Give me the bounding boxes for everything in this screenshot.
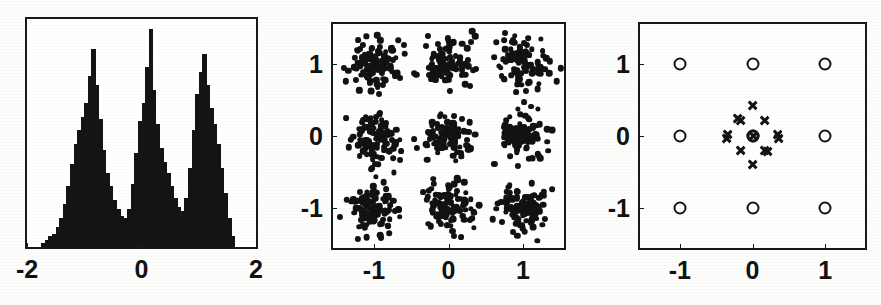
scatter-point <box>451 144 458 151</box>
scatter-point <box>355 37 361 43</box>
scatter-point <box>442 45 449 52</box>
scatter-point <box>346 144 352 150</box>
scatter-point <box>540 222 545 227</box>
centers-y-tick <box>640 136 644 137</box>
origin-cross <box>748 131 758 141</box>
scatter-point <box>490 216 497 223</box>
scatter-point <box>468 197 474 203</box>
scatter-point <box>521 99 527 105</box>
scatter-point <box>430 181 436 187</box>
scatter-point <box>530 224 537 231</box>
scatter-point <box>359 137 366 144</box>
scatter-point <box>471 225 476 230</box>
scatter-point <box>365 63 372 70</box>
scatter-point <box>396 38 402 44</box>
scatter-point <box>466 119 473 126</box>
scatter-point <box>507 153 513 159</box>
scatter-point <box>544 139 550 145</box>
centers-x-tick <box>680 244 681 248</box>
scatter-point <box>437 137 443 143</box>
scatter-point <box>423 43 429 49</box>
centers-markers <box>640 24 865 248</box>
scatter-point <box>401 50 408 57</box>
scatter-point <box>411 136 417 142</box>
scatter-point <box>502 77 507 82</box>
scatter-point <box>371 188 377 194</box>
scatter-point <box>472 131 479 138</box>
scatter-point <box>351 210 357 216</box>
scatter-point <box>534 136 541 143</box>
scatter-point <box>549 186 555 192</box>
scatter-point <box>401 42 407 48</box>
scatter-point <box>377 232 384 239</box>
scatter-point <box>499 219 505 225</box>
scatter-point <box>374 134 380 140</box>
centers-y-ticklabel: 0 <box>590 124 630 149</box>
scatter-point <box>491 161 497 167</box>
scatter-point <box>514 163 520 169</box>
scatter-point <box>493 40 498 45</box>
scatter-point <box>519 222 525 228</box>
scatter-point <box>368 166 374 172</box>
cross-marker <box>762 146 773 157</box>
cross-marker <box>721 133 732 144</box>
scatter-point <box>354 59 361 66</box>
scatter-point <box>459 67 465 73</box>
scatter-point <box>523 144 530 151</box>
scatter-point <box>459 40 466 47</box>
scatter-point <box>435 211 441 217</box>
histogram-axes-frame <box>25 17 258 249</box>
scatter-point <box>450 39 457 46</box>
cross-marker <box>773 133 784 144</box>
scatter-point <box>553 78 560 85</box>
centers-x-tick <box>825 244 826 248</box>
cross-marker <box>747 159 758 170</box>
cross-marker <box>759 115 770 126</box>
scatter-point <box>357 153 363 159</box>
scatter-point <box>468 39 474 45</box>
scatter-point <box>448 59 455 66</box>
scatter-point <box>468 145 474 151</box>
scatter-point <box>535 107 540 112</box>
scatter-point <box>426 187 432 193</box>
scatter-point <box>392 141 398 147</box>
scatter-point <box>493 206 499 212</box>
scatter-point <box>446 186 452 192</box>
scatter-point <box>541 193 547 199</box>
scatter-point <box>376 91 382 97</box>
scatter-point <box>451 113 457 119</box>
scatter-point <box>391 170 396 175</box>
scatter-point <box>539 37 544 42</box>
scatter-point <box>397 214 403 220</box>
scatter-point <box>504 189 511 196</box>
cluster-center-circle <box>746 202 759 215</box>
scatter-point <box>531 209 537 215</box>
scatter-point <box>447 88 453 94</box>
centers-y-tick <box>640 208 644 209</box>
scatter-point <box>445 67 451 73</box>
scatter-point <box>519 137 525 143</box>
scatter-point <box>363 234 370 241</box>
centers-x-tick <box>753 244 754 248</box>
scatter-point <box>501 130 508 137</box>
scatter-point <box>363 114 369 120</box>
scatter-x-ticklabel: -1 <box>363 258 385 283</box>
scatter-point <box>523 67 529 73</box>
scatter-point <box>469 28 476 35</box>
scatter-x-tick <box>523 244 524 248</box>
scatter-point <box>514 188 521 195</box>
scatter-point <box>527 201 534 208</box>
figure-canvas: -202 -10110-1 -10110-1 <box>0 0 881 305</box>
scatter-point <box>368 88 375 95</box>
scatter-point <box>458 234 464 240</box>
scatter-y-ticklabel: 0 <box>283 124 323 149</box>
scatter-point <box>457 144 462 149</box>
scatter-point <box>380 178 387 185</box>
scatter-point <box>445 76 451 82</box>
scatter-point <box>386 230 392 236</box>
cluster-center-circle <box>819 57 832 70</box>
scatter-point <box>451 137 458 144</box>
scatter-point <box>515 59 522 66</box>
scatter-point <box>509 197 516 204</box>
scatter-point <box>509 125 516 132</box>
